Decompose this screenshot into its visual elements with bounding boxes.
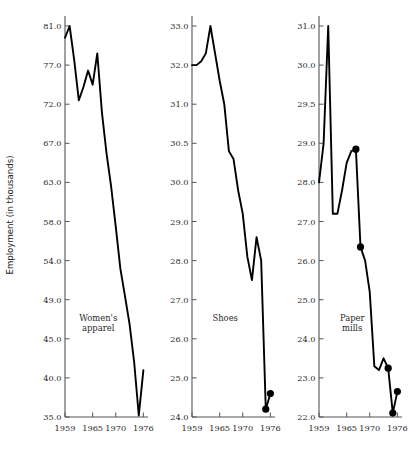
y-axis-label: Employment (in thousands) — [5, 155, 15, 274]
y-tick-label: 24.0 — [170, 412, 188, 422]
y-tick-label: 77.0 — [43, 60, 61, 70]
x-tick-label: 1959 — [182, 423, 203, 433]
data-point-marker — [357, 243, 364, 250]
y-tick-label: 30.0 — [297, 60, 315, 70]
panel-label-womens-apparel-line2: apparel — [82, 323, 115, 333]
data-point-marker — [389, 409, 396, 416]
y-tick-label: 28.0 — [170, 256, 188, 266]
data-point-marker — [385, 365, 392, 372]
y-tick-label: 72.0 — [43, 99, 61, 109]
y-tick-label: 35.0 — [43, 412, 61, 422]
y-tick-label: 27.0 — [297, 217, 315, 227]
y-tick-label: 54.0 — [43, 256, 61, 266]
y-tick-label: 67.0 — [43, 138, 61, 148]
panel-label-paper-mills: Paper — [340, 313, 365, 323]
x-tick-label: 1976 — [387, 423, 408, 433]
y-tick-label: 81.0 — [43, 21, 61, 31]
y-tick-label: 29.0 — [170, 217, 188, 227]
x-tick-label: 1965 — [336, 423, 357, 433]
employment-multi-panel-line-chart: Employment (in thousands) 81.077.072.067… — [0, 0, 409, 451]
y-tick-label: 31.0 — [297, 21, 315, 31]
y-tick-label: 30.0 — [170, 177, 188, 187]
y-tick-label: 29.5 — [297, 99, 315, 109]
y-tick-label: 27.0 — [170, 295, 188, 305]
panel-label-womens-apparel: Women's — [79, 313, 117, 323]
x-tick-label: 1959 — [55, 423, 76, 433]
x-tick-label: 1970 — [105, 423, 126, 433]
data-point-marker — [267, 390, 274, 397]
data-point-marker — [394, 388, 401, 395]
y-tick-label: 32.0 — [170, 60, 188, 70]
x-tick-label: 1959 — [309, 423, 330, 433]
y-tick-label: 63.0 — [43, 177, 61, 187]
data-point-marker — [262, 406, 269, 413]
y-tick-label: 58.0 — [43, 217, 61, 227]
y-tick-label: 26.0 — [297, 256, 315, 266]
y-tick-label: 28.0 — [297, 177, 315, 187]
data-point-marker — [352, 146, 359, 153]
y-tick-label: 31.0 — [170, 99, 188, 109]
y-tick-label: 45.0 — [43, 334, 61, 344]
y-tick-label: 49.0 — [43, 295, 61, 305]
chart-figure: Employment (in thousands) 81.077.072.067… — [0, 0, 409, 451]
y-tick-label: 29.0 — [297, 138, 315, 148]
y-tick-label: 33.0 — [170, 21, 188, 31]
y-tick-label: 24.0 — [297, 334, 315, 344]
x-tick-label: 1976 — [133, 423, 154, 433]
panel-label-shoes: Shoes — [212, 313, 237, 323]
x-tick-label: 1965 — [209, 423, 230, 433]
y-tick-label: 30.5 — [170, 138, 188, 148]
x-tick-label: 1965 — [82, 423, 103, 433]
y-tick-label: 25.0 — [170, 373, 188, 383]
x-tick-label: 1976 — [260, 423, 281, 433]
panel-label-paper-mills-line2: mills — [342, 323, 362, 333]
y-tick-label: 25.0 — [297, 295, 315, 305]
y-tick-label: 40.0 — [43, 373, 61, 383]
y-axis-label-text: Employment (in thousands) — [5, 155, 15, 274]
x-tick-label: 1970 — [232, 423, 253, 433]
y-tick-label: 22.0 — [297, 412, 315, 422]
x-tick-label: 1970 — [359, 423, 380, 433]
y-tick-label: 23.0 — [297, 373, 315, 383]
y-tick-label: 26.0 — [170, 334, 188, 344]
